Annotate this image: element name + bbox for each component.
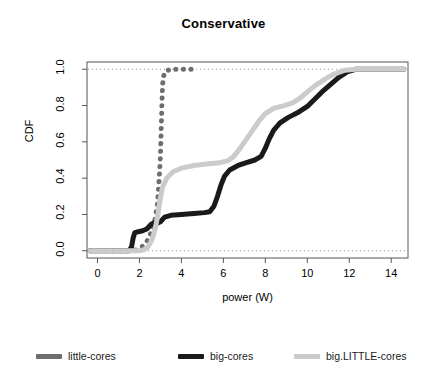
series-line-big-cores	[90, 69, 404, 250]
y-tick-label-3: 0.6	[54, 127, 66, 153]
legend-item-big-little-cores[interactable]: big.LITTLE-cores	[294, 344, 407, 368]
chart-figure: Conservative CDF power (W) 0.00.20.40.60…	[0, 0, 447, 371]
plot-canvas	[0, 0, 447, 371]
y-tick-label-5: 1.0	[54, 54, 66, 80]
legend-swatch-icon	[294, 354, 320, 359]
page-title: Conservative	[0, 16, 447, 31]
x-tick-label-2: 4	[169, 267, 193, 279]
y-axis-label: CDF	[23, 101, 35, 161]
legend-swatch-icon	[36, 354, 62, 359]
y-tick-label-0: 0.0	[54, 236, 66, 262]
legend-label: little-cores	[68, 350, 116, 362]
x-axis-label: power (W)	[87, 291, 408, 303]
chart-legend: little-coresbig-coresbig.LITTLE-cores	[0, 344, 447, 368]
x-tick-label-7: 14	[379, 267, 403, 279]
x-tick-label-3: 6	[211, 267, 235, 279]
y-tick-label-4: 0.8	[54, 91, 66, 117]
legend-item-big-cores[interactable]: big-cores	[178, 344, 253, 368]
legend-item-little-cores[interactable]: little-cores	[36, 344, 116, 368]
x-tick-label-5: 10	[295, 267, 319, 279]
x-tick-label-4: 8	[253, 267, 277, 279]
legend-swatch-icon	[178, 354, 204, 359]
x-tick-label-1: 2	[127, 267, 151, 279]
x-tick-label-6: 12	[337, 267, 361, 279]
x-tick-label-0: 0	[85, 267, 109, 279]
y-tick-label-2: 0.4	[54, 163, 66, 189]
y-tick-label-1: 0.2	[54, 199, 66, 225]
legend-label: big-cores	[210, 350, 253, 362]
series-line-little-cores	[90, 69, 194, 250]
legend-label: big.LITTLE-cores	[326, 350, 407, 362]
